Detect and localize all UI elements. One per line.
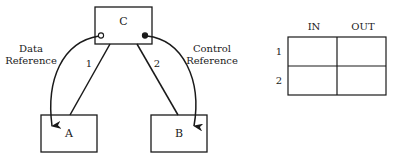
table-row-label-2: 2 <box>276 75 282 86</box>
node-a: A <box>41 115 97 152</box>
diagram-canvas: C A B 1 2 Data Reference Control Referen… <box>0 0 399 162</box>
table-header-in: IN <box>308 21 321 32</box>
open-circle-connector-icon <box>98 33 103 38</box>
control-reference-arrow <box>147 36 196 126</box>
in-out-table: IN OUT 1 2 <box>276 21 386 95</box>
data-reference-label-line1: Data <box>19 43 43 54</box>
node-c: C <box>95 7 152 44</box>
node-c-label: C <box>119 15 127 28</box>
control-reference-label-line1: Control <box>193 43 231 54</box>
data-reference-label-line2: Reference <box>5 55 57 66</box>
table-row-label-1: 1 <box>276 46 282 57</box>
table-header-out: OUT <box>351 21 375 32</box>
node-b: B <box>151 115 207 152</box>
data-reference-arrow <box>51 36 99 126</box>
node-a-label: A <box>64 127 74 140</box>
filled-circle-connector-icon <box>142 33 147 38</box>
edge-c-b-label: 2 <box>154 58 160 69</box>
edge-c-a-label: 1 <box>86 58 92 69</box>
node-b-label: B <box>175 127 183 140</box>
edge-c-a <box>70 44 110 115</box>
control-reference-label-line2: Reference <box>186 55 238 66</box>
edge-c-b <box>137 44 178 115</box>
